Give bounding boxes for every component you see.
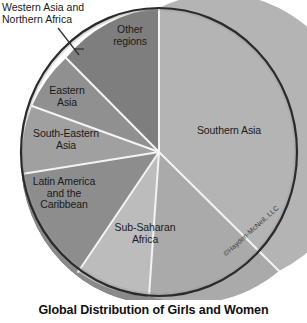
pie-chart-figure: Southern Asia Sub-Saharan Africa Latin A… [0, 0, 307, 323]
pie-chart-area: Southern Asia Sub-Saharan Africa Latin A… [0, 0, 307, 300]
chart-title: Global Distribution of Girls and Women [0, 303, 307, 317]
pie-chart-svg [0, 0, 307, 300]
